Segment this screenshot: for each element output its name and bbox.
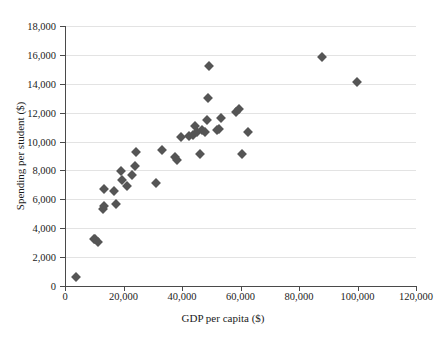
x-axis-title: GDP per capita ($): [0, 312, 446, 324]
data-point: [317, 52, 327, 62]
y-axis-tick-label: 14,000: [0, 78, 56, 89]
y-axis-tick: [60, 257, 65, 258]
data-point: [243, 127, 253, 137]
data-point: [122, 181, 132, 191]
plot-area: [65, 26, 416, 286]
gridline-horizontal: [65, 84, 416, 85]
scatter-chart: Spending per student ($) GDP per capita …: [0, 0, 446, 342]
y-axis-tick-label: 8,000: [0, 165, 56, 176]
y-axis-tick: [60, 199, 65, 200]
data-point: [93, 237, 103, 247]
y-axis-tick-label: 10,000: [0, 136, 56, 147]
data-point: [204, 61, 214, 71]
x-axis-tick-label: 20,000: [109, 291, 138, 302]
data-point: [352, 77, 362, 87]
gridline-horizontal: [65, 55, 416, 56]
y-axis-tick-label: 18,000: [0, 21, 56, 32]
y-axis-tick: [60, 170, 65, 171]
y-axis-tick-label: 12,000: [0, 107, 56, 118]
data-point: [217, 113, 227, 123]
y-axis-tick: [60, 55, 65, 56]
x-axis-tick-label: 40,000: [168, 291, 197, 302]
gridline-horizontal: [65, 113, 416, 114]
y-axis-tick: [60, 26, 65, 27]
data-point: [151, 178, 161, 188]
y-axis-tick: [60, 228, 65, 229]
data-point: [237, 149, 247, 159]
data-point: [157, 145, 167, 155]
y-axis-tick: [60, 113, 65, 114]
data-point: [100, 184, 110, 194]
y-axis-tick-label: 6,000: [0, 194, 56, 205]
data-point: [131, 147, 141, 157]
data-point: [202, 115, 212, 125]
y-axis-tick-label: 0: [0, 281, 56, 292]
x-axis-tick-label: 60,000: [226, 291, 255, 302]
data-point: [109, 186, 119, 196]
data-point: [112, 199, 122, 209]
gridline-horizontal: [65, 26, 416, 27]
data-point: [71, 272, 81, 282]
x-axis-tick-label: 100,000: [340, 291, 374, 302]
y-axis-title: Spending per student ($): [14, 26, 26, 286]
y-axis-tick-label: 2,000: [0, 252, 56, 263]
x-axis-tick-label: 120,000: [399, 291, 433, 302]
gridline-horizontal: [65, 257, 416, 258]
y-axis-tick-label: 16,000: [0, 49, 56, 60]
y-axis-tick: [60, 142, 65, 143]
gridline-horizontal: [65, 142, 416, 143]
y-axis-tick-label: 4,000: [0, 223, 56, 234]
data-point: [195, 149, 205, 159]
y-axis-line: [65, 26, 66, 287]
data-point: [203, 93, 213, 103]
x-axis-tick-label: 0: [62, 291, 67, 302]
x-axis-tick-label: 80,000: [285, 291, 314, 302]
gridline-horizontal: [65, 228, 416, 229]
y-axis-tick: [60, 84, 65, 85]
